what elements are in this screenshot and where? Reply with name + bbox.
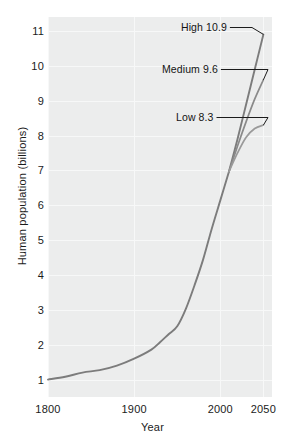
x-tick-label: 1900: [104, 404, 164, 415]
high-projection-line: [229, 34, 263, 171]
y-tick-label: 11: [4, 26, 44, 37]
y-axis-title: Human population (billions): [16, 96, 28, 296]
plot-area: [48, 17, 272, 397]
x-tick-label: 2050: [233, 404, 291, 415]
y-tick-label: 3: [4, 305, 44, 316]
population-projection-chart: 1234567891011 1800190020002050 Year Huma…: [0, 0, 291, 439]
x-axis-title: Year: [0, 421, 291, 433]
y-tick-label: 2: [4, 340, 44, 351]
x-tick-label: 1800: [18, 404, 78, 415]
x-axis-title-text: Year: [141, 421, 164, 433]
historical-line: [48, 172, 229, 380]
x-axis-ticks: 1800190020002050: [0, 404, 291, 420]
low-projection-line: [229, 125, 263, 172]
y-tick-label: 1: [4, 375, 44, 386]
annotation-low: Low 8.3: [176, 112, 213, 123]
annotation-high: High 10.9: [181, 22, 227, 33]
medium-projection-line: [229, 80, 263, 172]
y-tick-label: 10: [4, 61, 44, 72]
annotation-medium: Medium 9.6: [162, 64, 218, 75]
curves-layer: [48, 17, 272, 397]
